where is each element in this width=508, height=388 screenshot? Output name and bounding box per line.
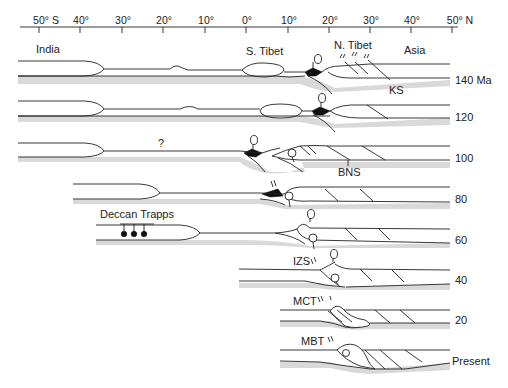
- label-izs: IZS: [293, 256, 310, 267]
- tick-label-20n: 20°: [322, 15, 338, 26]
- age-100: 100: [455, 153, 473, 164]
- tick-label-30: 30°: [115, 15, 131, 26]
- section-40: [239, 250, 450, 291]
- tick-label-50n: 50° N: [447, 15, 473, 26]
- section-120: [18, 94, 450, 133]
- label-mct: MCT: [293, 296, 317, 307]
- latitude-axis: [20, 27, 458, 33]
- tick-label-40: 40°: [73, 15, 89, 26]
- label-question: ?: [158, 138, 164, 149]
- section-140ma: [18, 52, 450, 94]
- age-120: 120: [455, 112, 473, 123]
- tick-label-10: 10°: [198, 15, 214, 26]
- age-60: 60: [455, 235, 467, 246]
- age-20: 20: [455, 315, 467, 326]
- label-deccan-trapps: Deccan Trapps: [100, 209, 174, 220]
- label-mbt: MBT: [301, 336, 324, 347]
- region-india: India: [36, 44, 60, 55]
- tick-label-50s: 50° S: [33, 15, 59, 26]
- tick-label-20: 20°: [156, 15, 172, 26]
- section-100: [18, 136, 450, 174]
- age-140ma: 140 Ma: [455, 75, 492, 86]
- tectonic-diagram: .ln{fill:none;stroke:#222;stroke-width:0…: [0, 0, 508, 388]
- age-80: 80: [455, 194, 467, 205]
- tick-label-40n: 40°: [404, 15, 420, 26]
- label-ks: KS: [389, 85, 404, 96]
- label-bns: BNS: [338, 167, 361, 178]
- region-asia: Asia: [404, 45, 425, 56]
- tick-label-0: 0°: [242, 15, 252, 26]
- section-80: [73, 180, 450, 209]
- tick-label-10n: 10°: [281, 15, 297, 26]
- age-40: 40: [455, 275, 467, 286]
- tick-label-30n: 30°: [363, 15, 379, 26]
- age-present: Present: [452, 356, 490, 367]
- region-s-tibet: S. Tibet: [246, 46, 283, 57]
- region-n-tibet: N. Tibet: [334, 40, 372, 51]
